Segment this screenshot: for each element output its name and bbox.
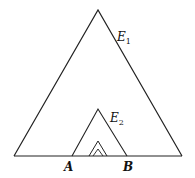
nested-triangles-diagram: E1 E2 A B <box>0 0 195 178</box>
label-e2-main: E <box>110 111 119 125</box>
label-e1-main: E <box>117 30 126 44</box>
label-e2-sub: 2 <box>119 118 124 127</box>
diagram-svg <box>0 0 195 178</box>
triangle-e4 <box>93 149 103 156</box>
triangle-e1 <box>14 10 182 156</box>
label-e1-sub: 1 <box>126 37 131 46</box>
label-a: A <box>64 161 73 173</box>
label-b: B <box>123 161 133 173</box>
label-e1: E1 <box>117 31 131 46</box>
label-e2: E2 <box>110 112 124 127</box>
